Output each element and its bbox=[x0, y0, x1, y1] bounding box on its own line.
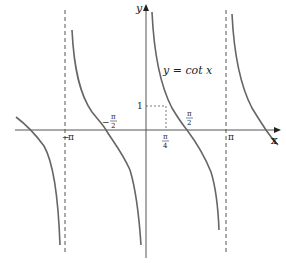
x-tick-neg-half-den: 2 bbox=[111, 122, 115, 130]
x-tick-quarter-num: π bbox=[163, 133, 168, 141]
cot-branch-2 bbox=[72, 30, 141, 245]
y-axis-label: y bbox=[135, 2, 143, 15]
cot-branch-3 bbox=[152, 12, 219, 230]
cot-branch-right bbox=[232, 14, 278, 145]
x-tick-half-den: 2 bbox=[187, 119, 191, 127]
x-axis-arrow-icon bbox=[274, 127, 281, 133]
x-axis-label: x bbox=[271, 134, 278, 147]
x-tick-neg-half-sign: − bbox=[102, 117, 110, 127]
cot-branch-left bbox=[16, 117, 60, 245]
x-tick-pi: π bbox=[228, 132, 234, 142]
cot-graph: y x y = cot x 1 − π π − π 2 π 2 π 4 bbox=[0, 0, 286, 263]
y-axis-arrow-icon bbox=[143, 4, 149, 11]
x-tick-neg-pi: π bbox=[68, 132, 74, 142]
x-tick-half-num: π bbox=[187, 110, 192, 118]
function-label: y = cot x bbox=[162, 64, 213, 77]
x-tick-neg-half-num: π bbox=[111, 113, 116, 121]
x-tick-quarter-den: 4 bbox=[163, 142, 168, 150]
y-tick-1: 1 bbox=[137, 101, 143, 111]
